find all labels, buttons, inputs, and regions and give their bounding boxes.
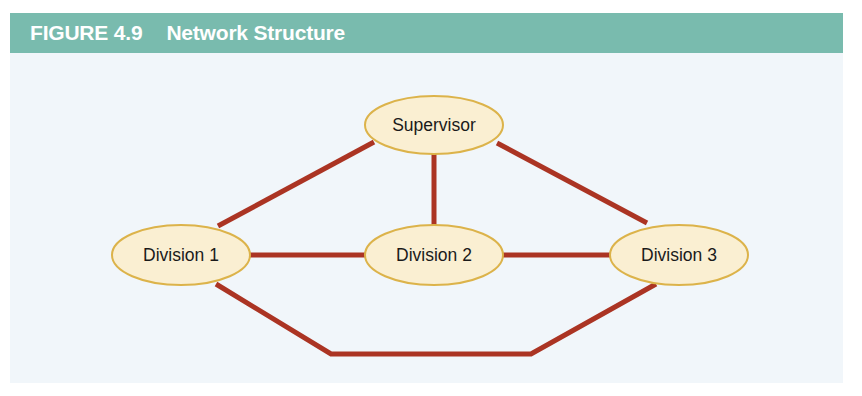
- edge-supervisor-division3: [497, 143, 647, 223]
- figure-header-bar: FIGURE 4.9 Network Structure: [10, 13, 843, 53]
- node-division1[interactable]: Division 1: [112, 225, 250, 285]
- node-label-division2: Division 2: [396, 245, 472, 265]
- node-division3[interactable]: Division 3: [610, 225, 748, 285]
- edge-division1-division3: [216, 284, 656, 354]
- figure-container: FIGURE 4.9 Network Structure SupervisorD…: [0, 0, 862, 396]
- figure-number-label: FIGURE 4.9: [30, 21, 142, 45]
- network-diagram-svg: SupervisorDivision 1Division 2Division 3: [10, 53, 843, 383]
- diagram-canvas: SupervisorDivision 1Division 2Division 3: [10, 53, 843, 383]
- nodes-layer: SupervisorDivision 1Division 2Division 3: [112, 96, 748, 285]
- edge-supervisor-division1: [218, 142, 374, 226]
- node-label-division1: Division 1: [143, 245, 219, 265]
- node-label-supervisor: Supervisor: [392, 115, 476, 135]
- node-label-division3: Division 3: [641, 245, 717, 265]
- node-supervisor[interactable]: Supervisor: [365, 96, 503, 154]
- node-division2[interactable]: Division 2: [365, 225, 503, 285]
- figure-title: Network Structure: [166, 21, 345, 45]
